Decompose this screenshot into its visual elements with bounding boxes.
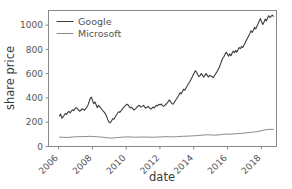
y-tick-label: 0 bbox=[37, 142, 43, 152]
y-tick-label: 200 bbox=[26, 117, 43, 127]
y-tick-label: 400 bbox=[26, 93, 43, 103]
y-tick-label: 1000 bbox=[20, 20, 43, 30]
y-tick-label: 800 bbox=[26, 45, 43, 55]
x-axis-title: date bbox=[149, 170, 175, 184]
legend-label-google: Google bbox=[78, 16, 112, 27]
y-axis-title: share price bbox=[3, 46, 17, 110]
chart-figure: 1000 800 600 400 200 0 20062008201020122… bbox=[0, 0, 292, 189]
share-price-line-chart: 1000 800 600 400 200 0 20062008201020122… bbox=[0, 0, 292, 189]
legend-label-microsoft: Microsoft bbox=[78, 28, 122, 39]
y-tick-label: 600 bbox=[26, 69, 43, 79]
